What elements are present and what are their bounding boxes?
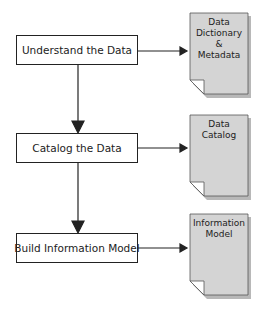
document-text-line: Model — [190, 229, 248, 240]
document-text-line: Metadata — [190, 50, 248, 61]
process-step-label: Build Information Model — [14, 242, 139, 254]
document-text-line: Data — [190, 119, 248, 130]
document-text-line: & — [190, 39, 248, 50]
process-step-build-model: Build Information Model — [16, 233, 138, 263]
document-text-line: Dictionary — [190, 28, 248, 39]
process-step-understand-data: Understand the Data — [16, 35, 138, 65]
document-text-line: Data — [190, 17, 248, 28]
process-step-label: Understand the Data — [22, 44, 132, 56]
document-text-line: Catalog — [190, 130, 248, 141]
document-text-line: Information — [190, 218, 248, 229]
process-step-label: Catalog the Data — [32, 142, 121, 154]
document-data-catalog: Data Catalog — [190, 115, 248, 196]
process-step-catalog-data: Catalog the Data — [16, 133, 138, 163]
document-data-dictionary: Data Dictionary & Metadata — [190, 13, 248, 94]
document-information-model: Information Model — [190, 214, 248, 295]
